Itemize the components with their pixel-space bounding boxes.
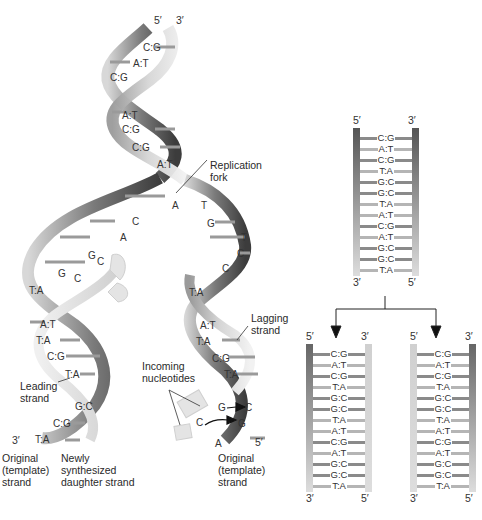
- ladder-top-left-end: 5′: [353, 114, 361, 126]
- leading-pair-1: T:A: [29, 285, 43, 296]
- base-pair-rung: G:C: [417, 469, 469, 480]
- base-pair-label: A:T: [435, 425, 452, 436]
- base-pair-label: G:C: [330, 403, 349, 414]
- left-unpaired-2: C: [132, 216, 139, 227]
- base-pair-rung: T:A: [417, 381, 469, 392]
- base-pair-label: A:T: [435, 447, 452, 458]
- base-pair-label: T:A: [435, 381, 451, 392]
- left-unpaired-5: C: [97, 256, 104, 267]
- base-pair-label: A:T: [331, 447, 348, 458]
- leading-strand-label: Leading strand: [20, 380, 57, 404]
- base-pair-label: A:T: [378, 209, 395, 220]
- parental-pair-8: A:T: [157, 159, 173, 170]
- right-unpaired-3: T: [241, 232, 247, 243]
- leading-pair-3: T:A: [36, 335, 50, 346]
- lagging-pair-4: C:G: [212, 353, 230, 364]
- helix-top-3prime: 3′: [176, 14, 184, 26]
- base-pair-rung: G:C: [313, 392, 365, 403]
- helix-top-5prime: 5′: [154, 14, 162, 26]
- base-pair-label: G:C: [377, 176, 396, 187]
- left-unpaired-3: A: [120, 232, 127, 243]
- base-pair-label: T:A: [378, 198, 394, 209]
- incoming-base-g: G: [218, 402, 226, 413]
- base-pair-label: T:A: [435, 480, 451, 491]
- base-pair-label: C:G: [377, 154, 396, 165]
- leading-pair-4: C:G: [47, 351, 65, 362]
- parental-pair-5: C:G: [122, 124, 140, 135]
- left-unpaired-7: C: [74, 273, 81, 284]
- base-pair-rung: G:C: [417, 392, 469, 403]
- ladder-bottom-right-end: 5′: [465, 492, 473, 504]
- base-pair-rung: G:C: [313, 403, 365, 414]
- lagging-pair-3: T:A: [196, 336, 210, 347]
- base-pair-rung: A:T: [313, 359, 365, 370]
- incoming-base-c: C: [196, 417, 203, 428]
- base-pair-label: G:C: [330, 469, 349, 480]
- base-pair-rung: C:G: [360, 132, 412, 143]
- incoming-nucleotides-label: Incoming nucleotides: [142, 360, 195, 384]
- leading-pair-5: T:A: [65, 369, 79, 380]
- helix-bottom-5prime: 5′: [255, 436, 263, 448]
- base-pair-rung: G:C: [313, 469, 365, 480]
- base-pair-rung: G:C: [360, 253, 412, 264]
- parent-dna-ladder: 5′3′C:GA:TC:GT:AG:CG:CT:AA:TC:GA:TG:CG:C…: [353, 114, 419, 284]
- base-pair-rung: G:C: [360, 187, 412, 198]
- daughter-left-dna-ladder: 5′3′C:GA:TC:GT:AG:CG:CT:AA:TC:GA:TG:CG:C…: [306, 330, 372, 500]
- base-pair-rung: T:A: [360, 198, 412, 209]
- base-pair-rung: G:C: [313, 458, 365, 469]
- base-pair-rung: C:G: [313, 436, 365, 447]
- base-pair-label: G:C: [377, 187, 396, 198]
- base-pair-rung: T:A: [360, 165, 412, 176]
- ladder-top-left-end: 5′: [410, 330, 418, 342]
- base-pair-rung: C:G: [313, 370, 365, 381]
- original-template-right-label: Original (template) strand: [218, 452, 265, 488]
- template-base-a: A: [215, 438, 222, 449]
- base-pair-rung: C:G: [417, 436, 469, 447]
- base-pair-label: C:G: [434, 436, 453, 447]
- base-pair-label: G:C: [377, 242, 396, 253]
- base-pair-rung: G:C: [417, 403, 469, 414]
- base-pair-label: A:T: [331, 359, 348, 370]
- base-pair-label: C:G: [330, 348, 349, 359]
- dna-replication-diagram: 5′ 3′ C:G A:T C:G A:T C:G C:G C:G A:T Re…: [0, 0, 482, 520]
- base-pair-label: C:G: [434, 348, 453, 359]
- base-pair-rung: G:C: [360, 176, 412, 187]
- right-unpaired-5: C: [222, 263, 229, 274]
- ladder-top-right-end: 3′: [465, 330, 473, 342]
- base-pair-rung: C:G: [417, 348, 469, 359]
- base-pair-rung: A:T: [417, 447, 469, 458]
- left-unpaired-4: G: [88, 250, 96, 261]
- ladder-bottom-left-end: 3′: [410, 492, 418, 504]
- parental-pair-1: C:G: [143, 42, 161, 53]
- base-pair-rung: A:T: [313, 447, 365, 458]
- parental-pair-2: A:T: [133, 58, 149, 69]
- base-pair-rung: C:G: [417, 370, 469, 381]
- left-unpaired-1: A: [172, 200, 179, 211]
- base-pair-label: G:C: [434, 392, 453, 403]
- base-pair-rung: A:T: [313, 425, 365, 436]
- base-pair-label: A:T: [435, 359, 452, 370]
- right-unpaired-1: T: [201, 200, 207, 211]
- base-pair-label: A:T: [331, 425, 348, 436]
- base-pair-label: A:T: [378, 231, 395, 242]
- ladder-bottom-left-end: 3′: [353, 276, 361, 288]
- left-unpaired-6: G: [58, 268, 66, 279]
- base-pair-rung: T:A: [313, 414, 365, 425]
- ladder-right-rail: [412, 128, 419, 276]
- lagging-pair-5: T:A: [224, 369, 238, 380]
- base-pair-label: C:G: [377, 220, 396, 231]
- base-pair-label: T:A: [331, 414, 347, 425]
- parental-pair-3: C:G: [110, 72, 128, 83]
- leading-pair-6: G:C: [75, 401, 93, 412]
- base-pair-rung: G:C: [360, 242, 412, 253]
- base-pair-rung: T:A: [417, 414, 469, 425]
- ladder-bottom-left-end: 3′: [306, 492, 314, 504]
- base-pair-label: T:A: [378, 165, 394, 176]
- base-pair-label: G:C: [330, 392, 349, 403]
- base-pair-rung: T:A: [313, 480, 365, 491]
- original-template-left-label: Original (template) strand: [2, 452, 49, 488]
- right-unpaired-4: C: [237, 248, 244, 259]
- leading-pair-2: A:T: [40, 319, 56, 330]
- parental-pair-4: A:T: [122, 110, 138, 121]
- lagging-pair-2: A:T: [200, 320, 216, 331]
